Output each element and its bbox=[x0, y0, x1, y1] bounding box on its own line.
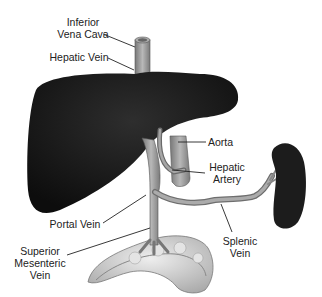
label-line: Superior bbox=[10, 245, 70, 257]
leader-portal-vein bbox=[103, 195, 146, 223]
label-hepatic-artery: Hepatic Artery bbox=[202, 161, 252, 185]
label-line: Inferior bbox=[48, 16, 118, 28]
label-line: Vena Cava bbox=[48, 28, 118, 40]
label-superior-mesenteric-vein: Superior Mesenteric Vein bbox=[10, 245, 70, 281]
label-inferior-vena-cava: Inferior Vena Cava bbox=[48, 16, 118, 40]
liver bbox=[27, 72, 238, 213]
label-line: Artery bbox=[202, 173, 252, 185]
leader-splenic-vein bbox=[221, 204, 232, 232]
label-line: Hepatic bbox=[202, 161, 252, 173]
label-splenic-vein: Splenic Vein bbox=[218, 235, 262, 259]
aorta bbox=[170, 136, 190, 187]
label-hepatic-vein: Hepatic Vein bbox=[46, 51, 112, 63]
inferior-vena-cava bbox=[135, 37, 150, 76]
label-aorta: Aorta bbox=[208, 136, 233, 148]
label-line: Mesenteric bbox=[10, 257, 70, 269]
label-line: Vein bbox=[10, 269, 70, 281]
anatomy-diagram: Inferior Vena Cava Hepatic Vein Aorta He… bbox=[0, 0, 322, 297]
label-portal-vein: Portal Vein bbox=[44, 218, 106, 230]
spleen bbox=[272, 143, 306, 228]
label-line: Splenic bbox=[218, 235, 262, 247]
label-line: Vein bbox=[218, 247, 262, 259]
